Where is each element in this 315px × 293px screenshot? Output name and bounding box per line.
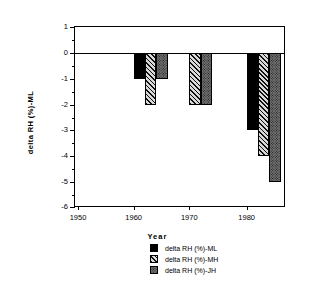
y-tick-minor <box>72 169 75 170</box>
legend-swatch-ml <box>150 244 158 252</box>
x-tick-label-1980: 1980 <box>238 214 255 222</box>
y-tick-minor <box>72 195 75 196</box>
y-tick-minor <box>72 40 75 41</box>
y-tick-minor <box>72 92 75 93</box>
plot-area: 1 0 -1 -2 -3 -4 -5 -6 1950 1960 1970 198… <box>74 26 285 207</box>
y-tick-m1 <box>70 79 75 80</box>
y-tick-label-m2: -2 <box>61 101 68 109</box>
chart-figure: delta RH (%)-ML 1 0 -1 -2 -3 -4 -5 -6 19… <box>0 0 315 293</box>
x-axis-title: Year <box>0 232 315 241</box>
legend-item-mh: delta RH (%)-MH <box>150 254 218 264</box>
x-tick-1950 <box>78 206 79 210</box>
legend-label-mh: delta RH (%)-MH <box>165 256 218 263</box>
y-tick-label-m6: -6 <box>61 203 68 211</box>
bar-1980-ml <box>247 53 258 131</box>
bar-1970-jh <box>201 53 212 105</box>
legend-swatch-jh <box>150 266 158 274</box>
y-tick-minor <box>72 143 75 144</box>
legend-item-ml: delta RH (%)-ML <box>150 243 218 253</box>
y-tick-minor <box>72 118 75 119</box>
y-axis-title: delta RH (%)-ML <box>26 58 35 188</box>
legend-label-jh: delta RH (%)-JH <box>165 267 216 274</box>
y-tick-0 <box>70 53 75 54</box>
y-tick-label-m4: -4 <box>61 153 68 161</box>
bar-1980-mh <box>258 53 269 156</box>
y-tick-label-m1: -1 <box>61 75 68 83</box>
y-tick-m3 <box>70 130 75 131</box>
y-tick-m5 <box>70 182 75 183</box>
bar-1960-jh <box>156 53 167 79</box>
x-tick-1970 <box>189 206 190 210</box>
y-tick-m2 <box>70 105 75 106</box>
x-tick-1960 <box>134 206 135 210</box>
legend-item-jh: delta RH (%)-JH <box>150 265 218 275</box>
x-tick-label-1950: 1950 <box>70 214 87 222</box>
y-tick-minor <box>72 66 75 67</box>
x-tick-label-1960: 1960 <box>125 214 142 222</box>
bar-1960-ml <box>134 53 145 79</box>
bar-1960-mh <box>145 53 156 105</box>
bar-1980-jh <box>269 53 280 182</box>
y-tick-label-m5: -5 <box>61 178 68 186</box>
bar-1970-mh <box>189 53 200 105</box>
y-tick-label-m3: -3 <box>61 127 68 135</box>
x-tick-label-1970: 1970 <box>181 214 198 222</box>
legend-label-ml: delta RH (%)-ML <box>165 245 217 252</box>
y-tick-label-0: 0 <box>64 49 68 57</box>
legend-swatch-mh <box>150 255 158 263</box>
y-tick-m6 <box>70 207 75 208</box>
chart-legend: delta RH (%)-ML delta RH (%)-MH delta RH… <box>150 243 218 276</box>
y-tick-1 <box>70 27 75 28</box>
y-tick-label-1: 1 <box>64 23 68 31</box>
y-tick-m4 <box>70 156 75 157</box>
x-tick-1980 <box>247 206 248 210</box>
